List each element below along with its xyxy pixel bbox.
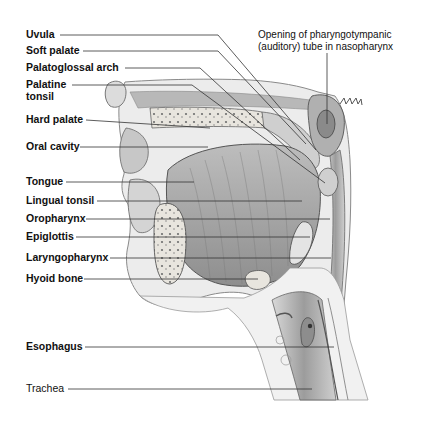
mandible-shape	[154, 203, 186, 284]
label-auditory-tube-line1: Opening of pharyngotympanic	[258, 29, 391, 40]
label-auditory-tube-line2: (auditory) tube in nasopharynx	[258, 41, 393, 52]
nasopharynx	[308, 95, 362, 156]
label-lingual-tonsil: Lingual tonsil	[26, 195, 94, 206]
palatine-tonsil-shape	[318, 168, 338, 196]
label-uvula: Uvula	[26, 29, 55, 40]
label-trachea: Trachea	[26, 383, 64, 394]
label-tongue: Tongue	[26, 176, 63, 187]
anatomy-figure: Uvula Soft palate Palatoglossal arch Pal…	[0, 0, 422, 422]
label-laryngopharynx: Laryngopharynx	[26, 252, 108, 263]
label-epiglottis: Epiglottis	[26, 231, 74, 242]
label-hyoid-bone: Hyoid bone	[26, 273, 83, 284]
label-palatoglossal-arch: Palatoglossal arch	[26, 62, 119, 73]
label-oral-cavity: Oral cavity	[26, 141, 80, 152]
hyoid-bone-shape	[245, 270, 270, 289]
label-oropharynx: Oropharynx	[26, 213, 86, 224]
tongue-shape	[166, 144, 320, 286]
label-hard-palate: Hard palate	[26, 114, 83, 125]
label-palatine-tonsil-line1: Palatine	[26, 79, 66, 90]
label-soft-palate: Soft palate	[26, 45, 80, 56]
label-esophagus: Esophagus	[26, 341, 83, 352]
label-palatine-tonsil-line2: tonsil	[26, 91, 54, 102]
